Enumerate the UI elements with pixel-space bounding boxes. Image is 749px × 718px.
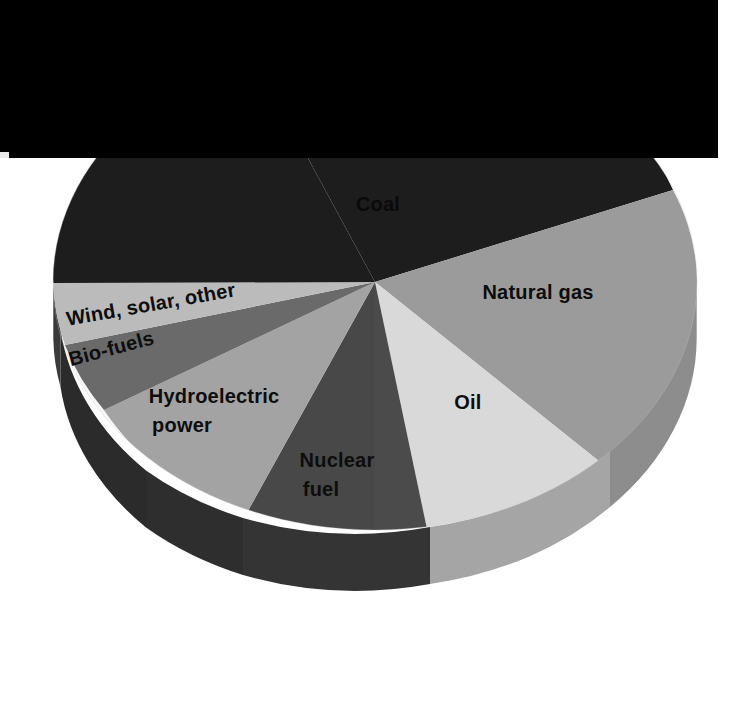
pie-chart-figure: Coal Natural gas Oil Nuclear fuel Hydroe… <box>0 0 749 718</box>
black-overlay-band-notch <box>0 152 9 160</box>
label-hydroelectric-line2: power <box>152 414 212 436</box>
label-oil: Oil <box>454 391 481 413</box>
label-nuclear-fuel-line1: Nuclear <box>300 449 375 471</box>
label-hydroelectric-line1: Hydroelectric <box>149 385 279 407</box>
label-natural-gas: Natural gas <box>482 281 593 303</box>
label-coal: Coal <box>356 193 400 215</box>
black-overlay-band <box>0 0 718 158</box>
label-nuclear-fuel-line2: fuel <box>303 478 339 500</box>
